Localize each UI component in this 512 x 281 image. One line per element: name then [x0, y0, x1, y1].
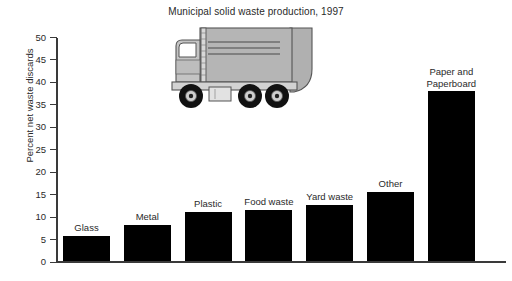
y-tick-40 [50, 82, 57, 83]
y-tick-label-5: 5 [18, 234, 46, 245]
bar-other [367, 192, 414, 261]
bar-label-paper-and-paperboard: Paper and Paperboard [413, 66, 489, 89]
y-tick-15 [50, 194, 57, 195]
bar-paper-and-paperboard [428, 91, 475, 261]
y-tick-label-35: 35 [18, 99, 46, 110]
y-tick-45 [50, 59, 57, 60]
bar-label-metal: Metal [111, 211, 183, 222]
y-tick-label-20: 20 [18, 166, 46, 177]
bar-label-glass: Glass [51, 222, 123, 233]
x-axis-line [56, 261, 506, 263]
y-tick-25 [50, 149, 57, 150]
chart-figure: Municipal solid waste production, 1997 P… [0, 0, 512, 281]
bar-label-other: Other [355, 178, 427, 189]
y-tick-label-40: 40 [18, 76, 46, 87]
bar-yard-waste [306, 205, 353, 261]
y-tick-label-0: 0 [18, 256, 46, 267]
y-tick-50 [50, 37, 57, 38]
y-tick-label-30: 30 [18, 121, 46, 132]
bar-label-yard-waste: Yard waste [294, 191, 366, 202]
y-tick-30 [50, 127, 57, 128]
y-tick-label-50: 50 [18, 32, 46, 43]
y-tick-10 [50, 217, 57, 218]
y-tick-label-45: 45 [18, 54, 46, 65]
chart-title: Municipal solid waste production, 1997 [0, 6, 512, 17]
bar-metal [124, 225, 171, 261]
y-tick-20 [50, 172, 57, 173]
y-tick-35 [50, 104, 57, 105]
y-tick-label-25: 25 [18, 144, 46, 155]
y-tick-label-10: 10 [18, 211, 46, 222]
y-tick-5 [50, 239, 57, 240]
garbage-truck-icon [162, 24, 342, 114]
y-tick-label-15: 15 [18, 189, 46, 200]
bar-food-waste [245, 210, 292, 261]
bar-glass [63, 236, 110, 261]
bar-plastic [185, 212, 232, 261]
